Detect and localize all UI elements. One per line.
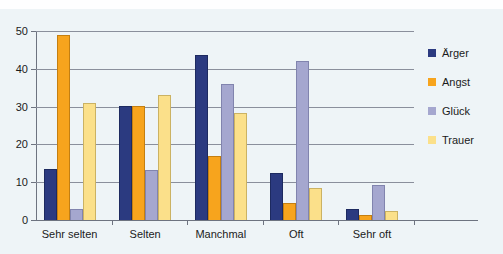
legend-swatch-icon — [428, 136, 436, 144]
x-axis-line — [36, 220, 478, 221]
x-category-label-2: Selten — [130, 228, 161, 240]
x-category-label-4: Oft — [289, 228, 304, 240]
bar — [309, 188, 322, 220]
x-tick-mark-1 — [112, 220, 113, 225]
x-tick-mark-4 — [338, 220, 339, 225]
y-tick-label-30: 30 — [16, 101, 28, 113]
chart-screenshot: 01020304050 Sehr seltenSeltenManchmalOft… — [0, 0, 503, 254]
legend-item-3: Glück — [428, 105, 474, 117]
bar — [385, 211, 398, 220]
bar — [132, 106, 145, 220]
legend-label: Glück — [442, 105, 470, 117]
legend-item-2: Angst — [428, 76, 474, 88]
x-category-label-1: Sehr selten — [42, 228, 98, 240]
bar-group-3 — [195, 31, 247, 220]
bar — [234, 113, 247, 220]
y-tick-label-50: 50 — [16, 25, 28, 37]
bar — [372, 185, 385, 220]
bar — [346, 209, 359, 220]
bar — [44, 169, 57, 220]
legend-label: Ärger — [442, 47, 469, 59]
x-tick-mark-2 — [187, 220, 188, 225]
legend-label: Angst — [442, 76, 470, 88]
y-axis-tick-labels: 01020304050 — [0, 31, 28, 220]
y-tick-mark-50 — [31, 31, 36, 32]
chart-legend: ÄrgerAngstGlückTrauer — [428, 47, 474, 146]
legend-item-4: Trauer — [428, 134, 474, 146]
y-tick-mark-20 — [31, 144, 36, 145]
bar — [283, 203, 296, 220]
legend-label: Trauer — [442, 134, 474, 146]
bar — [57, 35, 70, 220]
bars-layer — [36, 31, 414, 220]
bar-group-5 — [346, 31, 398, 220]
bar-group-1 — [44, 31, 96, 220]
y-tick-label-10: 10 — [16, 176, 28, 188]
y-tick-mark-30 — [31, 107, 36, 108]
bar — [119, 106, 132, 220]
y-tick-mark-40 — [31, 69, 36, 70]
y-tick-label-40: 40 — [16, 63, 28, 75]
bar — [221, 84, 234, 220]
legend-swatch-icon — [428, 78, 436, 86]
x-tick-mark-3 — [263, 220, 264, 225]
bar — [158, 95, 171, 220]
y-tick-mark-10 — [31, 182, 36, 183]
y-tick-mark-0 — [31, 220, 36, 221]
bar — [83, 103, 96, 220]
bar — [70, 209, 83, 220]
bar — [270, 173, 283, 220]
y-tick-label-20: 20 — [16, 138, 28, 150]
bar — [208, 156, 221, 220]
x-tick-mark-5 — [414, 220, 415, 225]
legend-swatch-icon — [428, 49, 436, 57]
legend-swatch-icon — [428, 107, 436, 115]
legend-item-1: Ärger — [428, 47, 474, 59]
cropped-title-strip — [0, 0, 503, 9]
bar — [145, 170, 158, 220]
bar — [195, 55, 208, 220]
bar-group-2 — [119, 31, 171, 220]
plot-area — [36, 31, 414, 220]
bar-group-4 — [270, 31, 322, 220]
x-category-label-5: Sehr oft — [353, 228, 392, 240]
y-tick-label-0: 0 — [22, 214, 28, 226]
x-category-label-3: Manchmal — [195, 228, 246, 240]
bar — [296, 61, 309, 220]
